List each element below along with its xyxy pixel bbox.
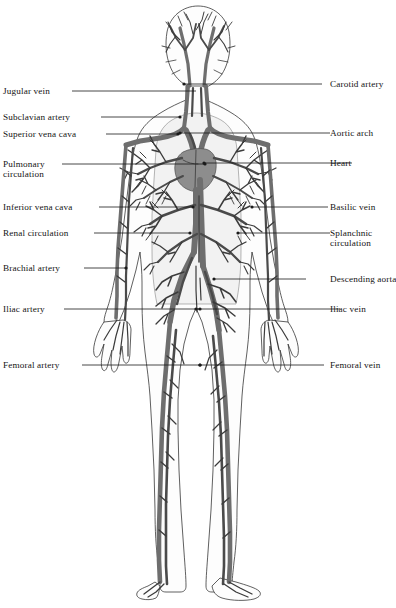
leader-dot-basilic-vein: [250, 205, 253, 208]
leader-dot-heart: [202, 161, 205, 164]
circulatory-system-figure: Jugular veinSubclavian arterySuperior ve…: [0, 0, 396, 608]
label-superior-vena-cava: Superior vena cava: [3, 129, 76, 139]
label-aortic-arch: Aortic arch: [330, 128, 373, 138]
label-pulmonary-circulation: Pulmonary: [3, 159, 45, 169]
label-descending-aorta: Descending aorta: [330, 274, 396, 284]
label-basilic-vein: Basilic vein: [330, 202, 376, 212]
leader-dot-brachial-artery: [124, 266, 127, 269]
left-hand-outline: [94, 320, 131, 372]
label-heart: Heart: [330, 158, 351, 168]
label-renal-circulation: Renal circulation: [3, 228, 69, 238]
label-splanchnic-circulation: Splanchnic: [330, 228, 372, 238]
leader-dot-femoral-vein: [198, 363, 201, 366]
leader-dot-carotid-artery: [182, 82, 185, 85]
anatomy-diagram-canvas: Jugular veinSubclavian arterySuperior ve…: [0, 0, 396, 608]
label-subclavian-artery: Subclavian artery: [3, 112, 70, 122]
leader-dot-inferior-vena-cava: [191, 205, 194, 208]
leader-dot-subclavian-artery: [178, 115, 181, 118]
label-splanchnic-circulation-line2: circulation: [330, 238, 371, 248]
label-femoral-artery: Femoral artery: [3, 360, 60, 370]
leader-dot-iliac-vein: [194, 307, 197, 310]
leader-dot-aortic-arch: [178, 131, 181, 134]
label-femoral-vein: Femoral vein: [330, 360, 381, 370]
label-carotid-artery: Carotid artery: [330, 79, 384, 89]
label-inferior-vena-cava: Inferior vena cava: [3, 202, 73, 212]
label-iliac-vein: Iliac vein: [330, 304, 366, 314]
right-hand-outline: [261, 320, 298, 372]
label-brachial-artery: Brachial artery: [3, 263, 60, 273]
label-iliac-artery: Iliac artery: [3, 304, 45, 314]
head-outline: [166, 6, 230, 88]
leader-dot-renal-circulation: [188, 231, 191, 234]
label-pulmonary-circulation-line2: circulation: [3, 169, 44, 179]
label-jugular-vein: Jugular vein: [3, 86, 50, 96]
leader-dot-descending-aorta: [212, 277, 215, 280]
leader-dot-splanchnic-circulation: [236, 231, 239, 234]
right-foot-outline: [212, 578, 260, 600]
